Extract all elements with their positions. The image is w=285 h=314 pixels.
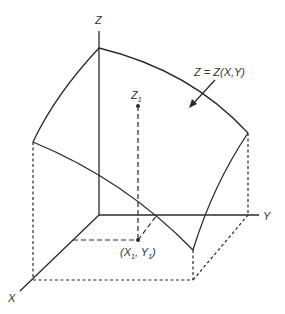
surface-top-back-edge: [99, 48, 248, 133]
diagram-svg: Z Y X Z = Z(X,Y) Z1 (X1, Y1): [0, 0, 285, 314]
z1-point: [136, 104, 140, 108]
z-axis-label: Z: [94, 14, 103, 26]
y-axis-label: Y: [263, 210, 271, 222]
z1-subscript: 1: [138, 96, 142, 103]
y1-projection-line: [138, 215, 157, 240]
surface-equation-label: Z = Z(X,Y): [193, 66, 245, 78]
surface-diagram: Z Y X Z = Z(X,Y) Z1 (X1, Y1): [0, 0, 285, 314]
x1y1-label: (X1, Y1): [120, 246, 156, 260]
z1-label: Z1: [130, 89, 142, 103]
x-axis: [20, 215, 99, 291]
x1y1-point: [136, 238, 140, 242]
x-axis-label: X: [7, 292, 16, 304]
surface-right-edge: [193, 133, 248, 250]
surface-front-edge: [33, 142, 193, 250]
surface-left-edge: [33, 48, 99, 142]
